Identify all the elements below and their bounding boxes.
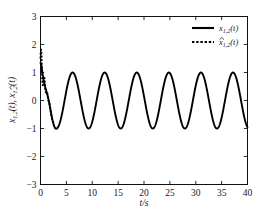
x-tick-label: 25: [165, 188, 175, 198]
x-tick-label: 0: [38, 188, 43, 198]
legend: x1,2(t) x1,2(t): [192, 23, 238, 48]
y-tick-label: −1: [26, 124, 36, 134]
legend-label-true-state: x1,2(t): [218, 23, 238, 34]
y-tick-label: 0: [32, 96, 37, 106]
legend-2-sub: 1,2: [223, 42, 231, 48]
x-tick-label: 10: [88, 188, 98, 198]
legend-1-tail: (t): [230, 23, 238, 33]
y-tick-label: −2: [26, 152, 36, 162]
x-axis-title: t/s: [140, 198, 149, 208]
y-label-tail2: (t): [7, 77, 18, 86]
y-tick-label: −3: [26, 180, 36, 190]
legend-1-sub: 1,2: [223, 28, 231, 34]
x-tick-label: 35: [217, 188, 227, 198]
svg-text:x1,2(t), x1,2(t): x1,2(t), x1,2(t): [7, 77, 18, 124]
legend-2-tail: (t): [230, 37, 238, 47]
y-tick-label: 3: [32, 12, 37, 22]
y-tick-label: 1: [32, 68, 37, 78]
x-tick-labels: 0510152025303540: [38, 188, 252, 198]
series-true-state: [41, 63, 248, 129]
x-tick-label: 20: [139, 188, 149, 198]
y-label-sub1: 1,2: [12, 111, 18, 119]
x-tick-label: 15: [113, 188, 123, 198]
line-chart: 0510152025303540 −3−2−10123 t/s x1,2(t),…: [0, 0, 265, 218]
y-axis-title: x1,2(t), x1,2(t): [7, 77, 18, 124]
x-tick-label: 5: [64, 188, 69, 198]
figure-container: 0510152025303540 −3−2−10123 t/s x1,2(t),…: [0, 0, 265, 218]
y-tick-label: 2: [32, 40, 37, 50]
y-tick-labels: −3−2−10123: [26, 12, 36, 190]
y-label-sub2: 1,2: [12, 86, 18, 94]
y-label-tail1: (t),: [7, 100, 18, 111]
x-tick-label: 30: [191, 188, 201, 198]
x-tick-label: 40: [243, 188, 253, 198]
series-estimated-state: [41, 50, 58, 129]
